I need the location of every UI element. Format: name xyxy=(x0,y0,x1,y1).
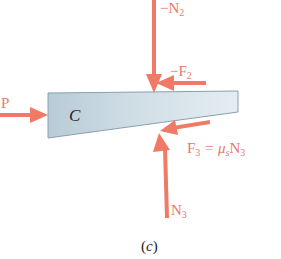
n3-text: N xyxy=(171,202,182,218)
neg-n2-label: −N2 xyxy=(160,1,184,18)
neg-f2-text: −F xyxy=(170,63,187,79)
caption-letter: c xyxy=(146,238,153,254)
figure-caption: (c) xyxy=(141,239,158,254)
p-text: P xyxy=(1,95,9,111)
neg-f2-label: −F2 xyxy=(170,64,192,81)
n3-label: N3 xyxy=(171,203,187,220)
neg-n2-subscript: 2 xyxy=(179,7,184,18)
n3-subscript: 3 xyxy=(182,209,187,220)
neg-n2-text: −N xyxy=(160,0,179,16)
f3-eq-n-subscript: 3 xyxy=(240,147,245,158)
f3-eq-mu: = μ xyxy=(200,140,225,156)
free-body-diagram xyxy=(0,0,281,259)
f3-label: F3 = μsN3 xyxy=(187,141,245,158)
p-label: P xyxy=(1,96,9,111)
body-c-label: C xyxy=(69,107,80,124)
n3-arrow xyxy=(153,133,170,218)
f3-arrow xyxy=(160,120,210,135)
f3-eq-n: N xyxy=(229,140,240,156)
neg-f2-subscript: 2 xyxy=(187,70,192,81)
